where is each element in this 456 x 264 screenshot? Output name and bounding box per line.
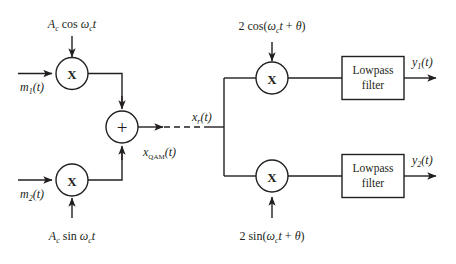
output-y2-arg: (t): [421, 153, 432, 167]
input-m2-base: m: [20, 187, 29, 201]
signal-xr-arg: (t): [200, 110, 211, 124]
signal-xr-label: xr(t): [191, 110, 212, 126]
wire-upper-mult-to-summer: [88, 74, 122, 106]
lo-sin-close: ): [301, 229, 305, 243]
carrier-sin-var: t: [92, 229, 96, 243]
lo-sin-omega: ω: [266, 229, 274, 243]
multiplier-upper-rx-glyph: X: [267, 72, 277, 87]
qam-block-diagram: X X + X Lowpass filter X Lowpass filter …: [0, 0, 456, 264]
signal-xqam-label: xQAM(t): [142, 145, 176, 161]
input-m2-arg: (t): [33, 187, 44, 201]
input-m2-label: m2(t): [20, 187, 44, 203]
lo-cos-omega: ω: [267, 19, 275, 33]
lo-cos-close: ): [302, 19, 306, 33]
diagram-canvas: X X + X Lowpass filter X Lowpass filter …: [0, 0, 456, 264]
carrier-sin-label: Ac sin ωct: [48, 229, 96, 245]
signal-xqam-arg: (t): [165, 145, 176, 159]
carrier-cos-fn: cos: [62, 17, 78, 31]
carrier-cos-var: t: [93, 17, 97, 31]
local-oscillator-sin-label: 2 sin(ωct + θ): [239, 229, 304, 245]
input-m1-arg: (t): [33, 80, 44, 94]
summer-glyph: +: [117, 117, 128, 138]
carrier-cos-omega: ω: [81, 17, 89, 31]
signal-xqam-sub: QAM: [148, 153, 165, 161]
carrier-cos-label: Ac cos ωct: [47, 17, 97, 33]
lo-cos-plus: +: [283, 19, 296, 33]
input-m1-base: m: [20, 80, 29, 94]
wire-lower-mult-to-summer: [88, 152, 122, 180]
output-y2-label: y2(t): [411, 153, 433, 169]
lo-sin-fn: sin: [248, 229, 262, 243]
input-m1-label: m1(t): [20, 80, 44, 96]
multiplier-lower-tx-glyph: X: [67, 174, 77, 189]
lowpass-filter-1-line1: Lowpass: [353, 64, 394, 77]
lowpass-filter-2: [342, 155, 404, 198]
lo-sin-plus: +: [282, 229, 295, 243]
output-y1-label: y1(t): [411, 55, 433, 71]
lowpass-filter-2-line2: filter: [362, 177, 385, 189]
lo-cos-fn: cos: [247, 19, 263, 33]
multiplier-lower-rx-glyph: X: [267, 170, 277, 185]
lowpass-filter-1-line2: filter: [362, 79, 385, 91]
lowpass-filter-2-line1: Lowpass: [353, 162, 394, 175]
carrier-sin-omega: ω: [80, 229, 88, 243]
local-oscillator-cos-label: 2 cos(ωct + θ): [238, 19, 305, 35]
multiplier-upper-tx-glyph: X: [67, 67, 77, 82]
output-y1-arg: (t): [421, 55, 432, 69]
lowpass-filter-1: [342, 57, 404, 100]
carrier-sin-fn: sin: [63, 229, 77, 243]
